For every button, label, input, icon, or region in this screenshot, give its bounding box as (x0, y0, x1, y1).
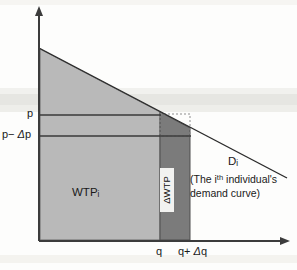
p-minus-suffix: p (25, 128, 31, 140)
delta-symbol-q: Δ (194, 245, 201, 257)
caption-line1-part-b: individual's (223, 173, 277, 185)
x-axis-arrowhead (280, 237, 290, 245)
demand-curve-label: Di (228, 155, 238, 169)
y-axis-arrowhead (35, 6, 43, 16)
x-tick-label-q-plus-delta-q: q+ Δq (178, 245, 207, 258)
demand-curve-caption: (The ith individual's demand curve) (190, 171, 277, 200)
wtp-label-subscript: i (98, 190, 100, 199)
q-plus-prefix: q+ (178, 245, 194, 257)
caption-line-2: demand curve) (190, 186, 277, 200)
x-tick-label-q-text: q (156, 245, 162, 257)
q-plus-suffix: q (201, 245, 207, 257)
caption-line-1: (The ith individual's (190, 171, 277, 186)
caption-line1-part-a: (The i (190, 173, 217, 185)
y-tick-label-p-minus-delta-p: p− Δp (2, 128, 31, 141)
delta-symbol-p: Δ (18, 128, 25, 140)
wtp-region-label: WTPi (72, 186, 99, 200)
y-tick-label-p: p (27, 107, 33, 120)
wtp-region (40, 49, 160, 240)
p-minus-prefix: p− (2, 128, 18, 140)
y-tick-label-p-text: p (27, 107, 33, 119)
x-tick-label-q: q (156, 245, 162, 258)
delta-wtp-region-label: ΔWTP (160, 168, 174, 212)
delta-wtp-label-text: ΔWTP (160, 168, 174, 212)
demand-curve-figure: p p− Δp q q+ Δq WTPi ΔWTP Di (The ith in… (0, 0, 297, 270)
plot-canvas (0, 0, 297, 270)
wtp-label-text: WTP (72, 186, 98, 198)
demand-curve-label-subscript: i (236, 159, 238, 168)
